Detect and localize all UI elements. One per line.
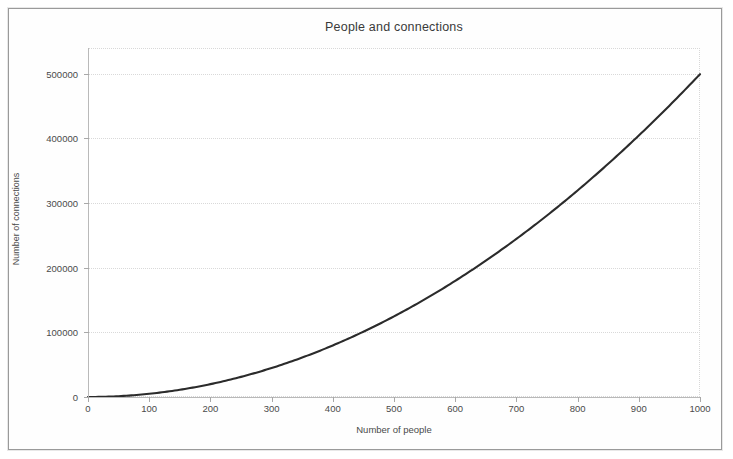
x-tick-label: 200	[202, 403, 218, 414]
x-tick-mark	[455, 397, 456, 402]
x-axis-title: Number of people	[88, 424, 700, 435]
x-tick-label: 1000	[689, 403, 710, 414]
y-axis-title: Number of connections	[11, 129, 21, 309]
x-tick-mark	[149, 397, 150, 402]
x-tick-mark	[272, 397, 273, 402]
x-tick-label: 700	[508, 403, 524, 414]
chart-title: People and connections	[88, 20, 700, 34]
x-tick-mark	[394, 397, 395, 402]
y-tick-mark	[84, 203, 89, 204]
x-tick-label: 400	[325, 403, 341, 414]
x-tick-label: 100	[141, 403, 157, 414]
x-tick-mark	[700, 397, 701, 402]
x-tick-label: 500	[386, 403, 402, 414]
y-tick-mark	[84, 138, 89, 139]
x-tick-mark	[639, 397, 640, 402]
data-curve	[88, 48, 700, 397]
y-tick-label: 0	[0, 392, 78, 403]
x-tick-mark	[88, 397, 89, 402]
x-tick-mark	[516, 397, 517, 402]
x-tick-mark	[578, 397, 579, 402]
x-tick-label: 0	[85, 403, 90, 414]
y-tick-mark	[84, 74, 89, 75]
x-tick-label: 900	[631, 403, 647, 414]
y-axis-line	[88, 48, 89, 397]
y-tick-mark	[84, 268, 89, 269]
y-tick-mark	[84, 332, 89, 333]
x-tick-label: 600	[447, 403, 463, 414]
x-tick-label: 800	[570, 403, 586, 414]
x-tick-label: 300	[264, 403, 280, 414]
plot-area	[88, 48, 700, 397]
y-tick-label: 500000	[0, 68, 78, 79]
y-tick-label: 100000	[0, 327, 78, 338]
chart-figure: People and connections 01000002000003000…	[0, 0, 733, 459]
x-tick-mark	[210, 397, 211, 402]
x-tick-mark	[333, 397, 334, 402]
